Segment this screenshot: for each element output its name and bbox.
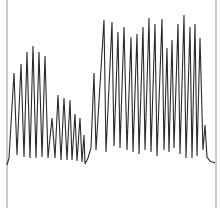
waveform-line — [7, 15, 215, 165]
waveform-chart — [0, 0, 220, 208]
